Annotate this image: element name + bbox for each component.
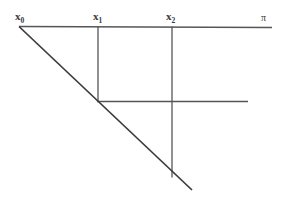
label-x0: x0 — [15, 11, 24, 25]
diagonal-line — [19, 27, 192, 191]
label-x1-subscript: 1 — [99, 16, 103, 25]
diagram-canvas — [0, 0, 281, 209]
label-x2: x2 — [166, 11, 175, 25]
label-plane-pi: π — [261, 13, 266, 23]
label-x2-subscript: 2 — [172, 16, 176, 25]
geometric-figure: x0 x1 x2 π — [0, 0, 281, 209]
label-x1: x1 — [93, 11, 102, 25]
label-x0-subscript: 0 — [21, 16, 25, 25]
plane-line — [19, 27, 272, 28]
